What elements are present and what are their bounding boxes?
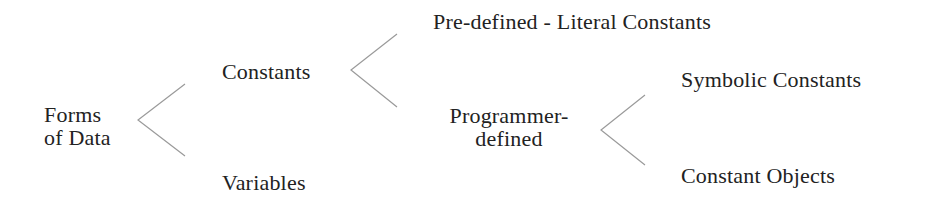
node-constant-objects: Constant Objects bbox=[681, 164, 835, 187]
node-symbolic-constants: Symbolic Constants bbox=[681, 68, 861, 91]
branch-root-to-constants-variables bbox=[138, 84, 185, 156]
node-forms-of-data: Forms of Data bbox=[44, 103, 111, 149]
node-programmer-defined: Programmer- defined bbox=[433, 104, 585, 150]
forms-of-data-tree-diagram: Forms of Data Constants Variables Pre-de… bbox=[0, 0, 946, 203]
node-variables: Variables bbox=[222, 171, 306, 194]
node-constants: Constants bbox=[222, 60, 311, 83]
node-programmer-defined-line-1: Programmer- bbox=[433, 104, 585, 127]
node-predefined-literal-constants: Pre-defined - Literal Constants bbox=[433, 10, 711, 33]
node-programmer-defined-line-2: defined bbox=[433, 127, 585, 150]
branch-constants-to-subtypes bbox=[351, 34, 397, 107]
node-forms-of-data-line-1: Forms bbox=[44, 103, 111, 126]
node-forms-of-data-line-2: of Data bbox=[44, 126, 111, 149]
branch-programmer-defined-to-subtypes bbox=[601, 95, 645, 165]
